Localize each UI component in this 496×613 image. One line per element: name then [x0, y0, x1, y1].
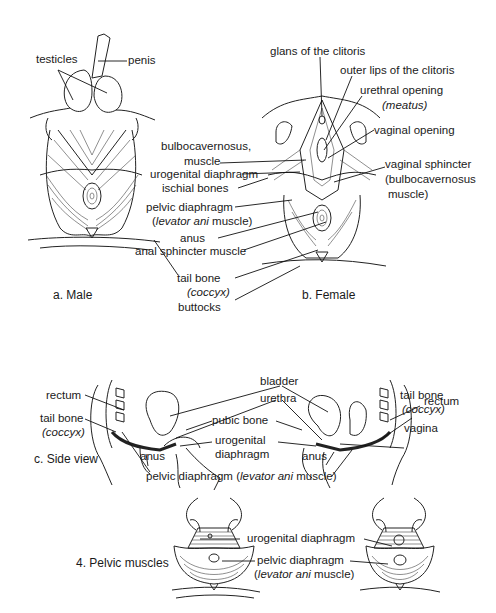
- label-levator-ani-muscle: (levator ani muscle): [152, 215, 252, 228]
- label-coccyx-left: (coccyx): [42, 426, 85, 439]
- label-vaginal-opening: vaginal opening: [374, 124, 455, 137]
- label-urogenital: urogenital: [215, 434, 266, 447]
- label-urethra: urethra: [260, 392, 296, 405]
- caption-side-view: c. Side view: [34, 452, 98, 466]
- label-bulbocavernosus-muscle-sub2: muscle): [388, 188, 428, 201]
- label-bulbocavernosus-muscle: muscle: [184, 155, 220, 168]
- label-coccyx: (coccyx): [187, 286, 230, 299]
- label-rectum-left: rectum: [46, 389, 81, 402]
- label-urethral-opening: urethral opening: [360, 84, 443, 97]
- label-tail-bone-right: tail bone: [400, 389, 443, 402]
- label-bulbocavernosus: bulbocavernosus,: [161, 140, 251, 153]
- label-anal-sphincter-muscle: anal sphincter muscle: [135, 245, 246, 258]
- label-buttocks: buttocks: [178, 301, 221, 314]
- caption-female: b. Female: [302, 288, 355, 302]
- label-urogenital-diaphragm: urogenital diaphragm: [150, 168, 258, 181]
- label-meatus: (meatus): [382, 99, 427, 112]
- caption-pelvic-muscles: 4. Pelvic muscles: [76, 556, 169, 570]
- label-penis: penis: [128, 54, 156, 67]
- label-pelvic-diaphragm-side: pelvic diaphragm (levator ani muscle): [146, 470, 336, 483]
- pelvic-muscles-male-illustration: [172, 498, 260, 598]
- label-bulbocavernosus-muscle-sub1: (bulbocavernosus: [385, 173, 476, 186]
- label-ischial-bones: ischial bones: [162, 182, 228, 195]
- pelvic-muscles-female-illustration: [360, 498, 440, 592]
- label-bladder: bladder: [260, 375, 298, 388]
- label-testicles: testicles: [36, 53, 78, 66]
- label-urogenital-diaphragm-bottom: urogenital diaphragm: [247, 532, 355, 545]
- label-coccyx-right: (coccyx): [402, 403, 445, 416]
- label-anus-left: anus: [140, 450, 165, 463]
- label-vaginal-sphincter: vaginal sphincter: [385, 158, 471, 171]
- female-perineum-illustration: [262, 96, 386, 266]
- label-glans-of-the-clitoris: glans of the clitoris: [270, 45, 365, 58]
- label-levator-ani-bottom: (levator ani muscle): [254, 568, 354, 581]
- label-anus: anus: [180, 232, 205, 245]
- label-anus-right: anus: [302, 450, 327, 463]
- caption-male: a. Male: [53, 288, 92, 302]
- label-pubic-bone: pubic bone: [212, 414, 268, 427]
- label-pelvic-diaphragm-bottom: pelvic diaphragm: [257, 554, 344, 567]
- label-pelvic-diaphragm: pelvic diaphragm: [146, 201, 233, 214]
- label-urogenital-diaphragm-side: diaphragm: [215, 448, 269, 461]
- side-leader-lines: [85, 386, 420, 476]
- label-tail-bone-left: tail bone: [40, 412, 83, 425]
- label-outer-lips-of-the-clitoris: outer lips of the clitoris: [340, 64, 454, 77]
- label-vagina: vagina: [404, 422, 438, 435]
- label-tail-bone: tail bone: [177, 272, 220, 285]
